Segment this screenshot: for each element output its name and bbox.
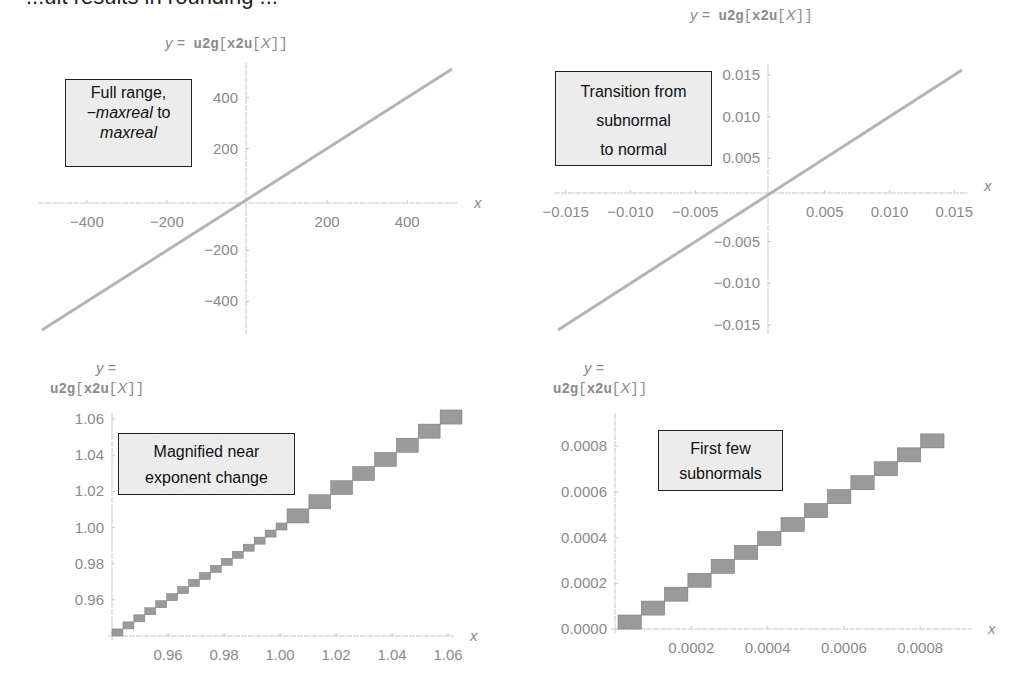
plot-title-line2: u2g[x2u[X]]: [50, 379, 144, 397]
step-block: [921, 434, 944, 448]
plot-bottom-left: x0.960.981.001.021.041.061.061.041.021.0…: [50, 359, 478, 663]
x-axis-label: x: [983, 177, 992, 194]
plot-title: y = u2g[x2u[X]]: [164, 34, 288, 52]
step-block: [804, 504, 827, 518]
y-tick-label: −0.005: [714, 233, 760, 250]
callout-full-range: Full range, −maxreal to maxreal: [65, 79, 192, 167]
step-block: [189, 579, 200, 586]
step-block: [200, 572, 211, 579]
step-block: [734, 545, 757, 559]
x-tick-label: 0.005: [806, 203, 844, 220]
x-tick-label: 0.0006: [821, 639, 867, 656]
x-tick-label: 1.00: [265, 646, 294, 663]
x-tick-label: 0.0008: [897, 639, 943, 656]
y-tick-label: 0.0004: [561, 529, 607, 546]
step-block: [287, 509, 309, 523]
callout-line: Transition from: [560, 78, 707, 106]
x-tick-label: −0.015: [543, 203, 589, 220]
y-tick-label: −0.010: [714, 274, 760, 291]
step-block: [178, 587, 189, 594]
x-tick-label: 0.0004: [745, 639, 791, 656]
step-block: [112, 629, 123, 636]
step-block: [265, 530, 276, 537]
y-tick-label: 0.0008: [561, 437, 607, 454]
step-block: [156, 601, 167, 608]
step-block: [758, 531, 781, 545]
x-tick-label: 0.010: [871, 203, 909, 220]
y-tick-label: −200: [204, 241, 238, 258]
step-block: [828, 490, 851, 504]
step-block: [418, 424, 440, 438]
step-block: [851, 476, 874, 490]
step-block: [781, 518, 804, 532]
step-block: [375, 452, 397, 466]
step-block: [243, 544, 254, 551]
y-tick-label: 200: [213, 140, 238, 157]
plot-title: y = u2g[x2u[X]]: [689, 6, 813, 24]
callout-magnified: Magnified near exponent change: [118, 433, 295, 495]
x-tick-label: 0.015: [935, 203, 973, 220]
step-block: [440, 410, 462, 424]
y-tick-label: 0.98: [75, 555, 104, 572]
callout-subnormals: First few subnormals: [658, 430, 783, 491]
step-block: [309, 495, 331, 509]
step-block: [123, 622, 134, 629]
x-axis-label: x: [473, 194, 482, 211]
x-tick-label: −0.010: [607, 203, 653, 220]
x-tick-label: 200: [315, 213, 340, 230]
step-block: [331, 481, 353, 495]
x-tick-label: 400: [395, 213, 420, 230]
x-axis-label: x: [469, 627, 478, 644]
plot-title-line1: y =: [95, 359, 116, 377]
step-block: [221, 558, 232, 565]
y-tick-label: 1.06: [75, 410, 104, 427]
step-block: [145, 608, 156, 615]
y-tick-label: 1.00: [75, 519, 104, 536]
step-block: [897, 448, 920, 462]
y-tick-label: 400: [213, 89, 238, 106]
y-tick-label: 0.0002: [561, 574, 607, 591]
callout-line: subnormals: [663, 461, 778, 486]
x-tick-label: −200: [150, 213, 184, 230]
step-block: [353, 466, 375, 480]
y-tick-label: 0.010: [722, 108, 760, 125]
y-tick-label: 1.02: [75, 482, 104, 499]
callout-line: subnormal: [560, 106, 707, 136]
step-block: [232, 551, 243, 558]
y-tick-label: 0.0006: [561, 483, 607, 500]
step-block: [641, 601, 664, 615]
y-tick-label: 0.005: [722, 149, 760, 166]
callout-line: First few: [663, 436, 778, 461]
plot-title-line2: u2g[x2u[X]]: [553, 379, 647, 397]
step-block: [711, 559, 734, 573]
x-tick-label: 0.98: [209, 646, 238, 663]
callout-line: to normal: [560, 136, 707, 164]
x-tick-label: 0.0002: [668, 639, 714, 656]
callout-line: Magnified near: [123, 439, 290, 465]
step-block: [254, 537, 265, 544]
step-block: [134, 615, 145, 622]
x-tick-label: 0.96: [153, 646, 182, 663]
plot-title-line1: y =: [583, 359, 604, 377]
x-tick-label: 1.04: [377, 646, 406, 663]
plot-bottom-right: x0.00020.00040.00060.00080.00080.00060.0…: [553, 359, 996, 656]
x-axis-label: x: [987, 620, 996, 637]
callout-line: Full range,: [70, 83, 187, 103]
step-block: [210, 565, 221, 572]
callout-line: −maxreal to: [70, 103, 187, 123]
y-tick-label: 0.015: [722, 66, 760, 83]
step-block: [874, 462, 897, 476]
step-block: [688, 573, 711, 587]
y-tick-label: 0.0000: [561, 620, 607, 637]
step-block: [167, 594, 178, 601]
step-block: [665, 587, 688, 601]
callout-transition: Transition from subnormal to normal: [555, 71, 712, 166]
y-tick-label: −400: [204, 292, 238, 309]
x-tick-label: 1.06: [433, 646, 462, 663]
step-block: [276, 523, 287, 530]
y-tick-label: −0.015: [714, 316, 760, 333]
callout-line: exponent change: [123, 465, 290, 491]
x-tick-label: −0.005: [672, 203, 718, 220]
y-tick-label: 0.96: [75, 591, 104, 608]
x-tick-label: −400: [70, 213, 104, 230]
